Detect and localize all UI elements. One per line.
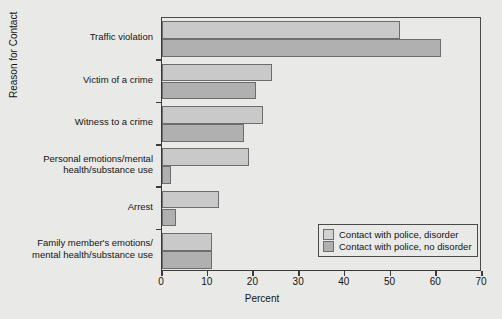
x-axis-tick-label: 0 [158,276,164,287]
bar [162,148,249,166]
x-axis-ticks: 010203040506070 [0,271,502,285]
bar [162,233,212,251]
legend-item-label: Contact with police, disorder [339,229,458,240]
chart-figure: Reason for Contact Traffic violationVict… [0,0,502,319]
bar [162,21,400,39]
x-axis-tick-label: 70 [475,276,486,287]
bar [162,106,263,124]
y-axis-category-label: Victim of a crime [0,74,153,86]
legend-item: Contact with police, no disorder [323,241,472,252]
bar [162,191,219,209]
x-axis-tick-label: 60 [430,276,441,287]
x-axis-tick-label: 30 [293,276,304,287]
y-axis-category-label: Family member's emotions/ mental health/… [0,237,153,260]
y-axis-category-label: Witness to a crime [0,116,153,128]
bar [162,209,176,227]
y-axis-category-label: Traffic violation [0,31,153,43]
legend-item-label: Contact with police, no disorder [339,241,472,252]
y-axis-category-label: Personal emotions/mental health/substanc… [0,153,153,176]
chart-legend: Contact with police, disorderContact wit… [318,224,478,257]
bar [162,39,441,57]
x-axis-title-text: Percent [245,293,279,304]
bar [162,82,256,100]
x-axis-tick-label: 50 [384,276,395,287]
legend-swatch-icon [323,241,334,252]
x-axis-tick-label: 40 [338,276,349,287]
bar [162,124,244,142]
legend-item: Contact with police, disorder [323,229,472,240]
x-axis-tick-label: 10 [201,276,212,287]
bar [162,166,171,184]
legend-swatch-icon [323,229,334,240]
x-axis-tick-label: 20 [247,276,258,287]
bar [162,251,212,269]
bar [162,64,272,82]
x-axis-title: Percent [0,293,502,304]
y-axis-category-label: Arrest [0,201,153,213]
